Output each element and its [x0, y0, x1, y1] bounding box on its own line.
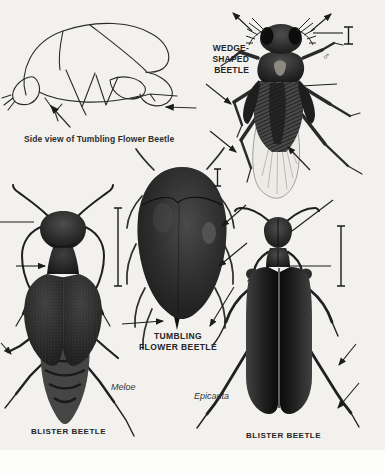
wedge-label-line2: SHAPED [212, 54, 249, 65]
wedge-beetle-label: WEDGE- SHAPED BEETLE [212, 43, 249, 76]
plate-artwork [0, 0, 385, 474]
side-view-caption: Side view of Tumbling Flower Beetle [24, 134, 174, 144]
wedge-label-line1: WEDGE- [212, 43, 249, 54]
field-guide-plate: Side view of Tumbling Flower Beetle WEDG… [0, 0, 385, 474]
eye-right [289, 27, 302, 45]
head [40, 211, 86, 248]
tumbling-beetle-label: TUMBLING FLOWER BEETLE [118, 331, 238, 353]
tumbling-label-line2: FLOWER BEETLE [118, 342, 238, 353]
blister-beetle-label-right: BLISTER BEETLE [246, 431, 321, 441]
male-symbol: ♂ [322, 50, 330, 62]
page-margin [0, 450, 385, 474]
meloe-genus-label: Meloe [111, 382, 136, 392]
tumbling-label-line1: TUMBLING [118, 331, 238, 342]
highlight-patch [202, 222, 216, 244]
wedge-label-line3: BEETLE [212, 65, 249, 76]
eye-left [261, 27, 274, 45]
epicauta-genus-label: Epicauta [194, 391, 229, 401]
blister-beetle-label-left: BLISTER BEETLE [31, 427, 106, 437]
